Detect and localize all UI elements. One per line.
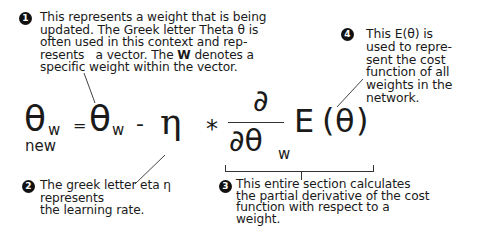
annotation-3-line: weight. [236, 214, 429, 226]
annotation-2-line: the learning rate. [40, 204, 171, 217]
annotation-2-line: The greek letter eta η [40, 179, 171, 192]
leader-line-4 [337, 79, 363, 107]
annotation-2: The greek letter eta η represents the le… [40, 179, 171, 217]
annotation-3: This entire section calculates the parti… [236, 179, 429, 225]
annotation-badge-3: 3 [219, 180, 232, 193]
leader-line-1 [84, 73, 95, 103]
annotation-badge-2: 2 [22, 180, 35, 193]
